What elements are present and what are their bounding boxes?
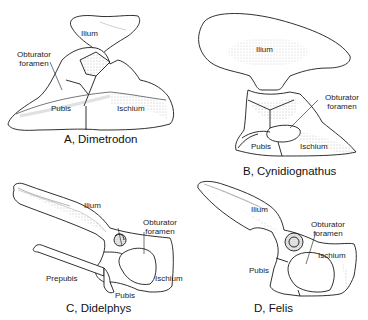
- label-b-obturator: Obturator: [320, 93, 364, 102]
- label-c-obturator: Obturator: [138, 218, 182, 227]
- label-d-ilium: Ilium: [251, 205, 268, 214]
- label-d-foramen: foramen: [306, 229, 350, 238]
- caption-d-felis: D, Felis: [254, 302, 293, 315]
- label-a-ischium: Ischium: [117, 104, 145, 113]
- panel-d-felis-drawing: [198, 181, 357, 296]
- label-b-ilium: Ilium: [256, 45, 273, 54]
- label-b-foramen: foramen: [320, 102, 364, 111]
- panel-b-cynidiognathus-drawing: [199, 14, 356, 157]
- label-d-obturator: Obturator: [306, 220, 350, 229]
- panel-c-didelphys-drawing: [13, 183, 173, 293]
- label-c-pubis: Pubis: [115, 291, 135, 300]
- label-c-foramen: foramen: [138, 227, 182, 236]
- pelvis-comparison-drawing: [0, 0, 368, 320]
- label-d-ischium: Ischium: [318, 251, 346, 260]
- label-a-pubis: Pubis: [51, 104, 71, 113]
- label-a-ilium: Ilium: [81, 29, 98, 38]
- label-c-prepubis: Prepubis: [46, 274, 78, 283]
- label-a-obturator: Obturator: [14, 50, 54, 59]
- caption-c-didelphys: C, Didelphys: [66, 302, 131, 315]
- label-c-ilium: Ilium: [84, 201, 101, 210]
- label-d-pubis: Pubis: [249, 266, 269, 275]
- label-c-ischium: Ischium: [155, 274, 183, 283]
- label-a-foramen: foramen: [14, 59, 54, 68]
- caption-a-dimetrodon: A, Dimetrodon: [64, 133, 138, 146]
- label-b-ischium: Ischium: [300, 142, 328, 151]
- label-b-pubis: Pubis: [251, 142, 271, 151]
- caption-b-cynidiognathus: B, Cynidiognathus: [243, 165, 336, 178]
